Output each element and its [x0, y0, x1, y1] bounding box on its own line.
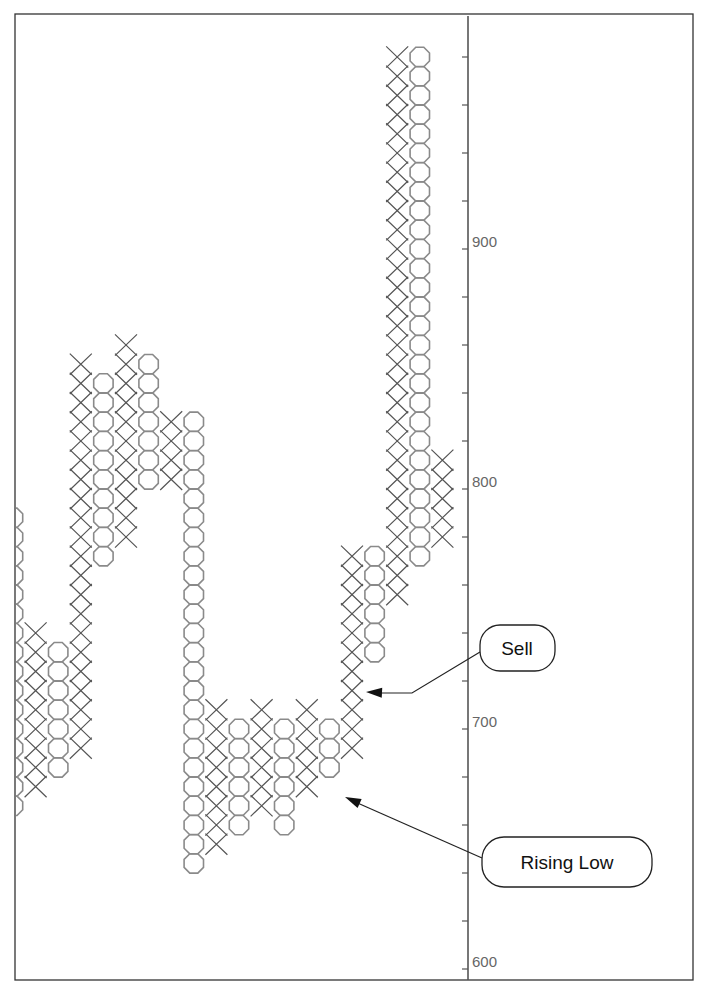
o-mark — [94, 374, 113, 393]
x-mark — [431, 507, 453, 528]
x-mark — [386, 565, 408, 586]
o-mark — [94, 393, 113, 412]
pf-column-12-o — [275, 719, 294, 834]
x-mark — [205, 757, 227, 778]
o-mark — [184, 412, 203, 431]
o-mark — [275, 777, 294, 796]
x-mark — [386, 277, 408, 298]
o-mark — [410, 182, 429, 201]
o-mark — [139, 374, 158, 393]
x-mark — [70, 642, 92, 663]
x-mark — [25, 699, 47, 720]
x-mark — [25, 680, 47, 701]
o-mark — [229, 758, 248, 777]
x-mark — [386, 142, 408, 163]
x-mark — [70, 450, 92, 471]
o-mark — [3, 719, 22, 738]
x-mark — [115, 430, 137, 451]
pf-column-9-x — [205, 699, 227, 855]
pf-columns — [3, 46, 453, 873]
o-mark — [184, 431, 203, 450]
pf-column-10-o — [229, 719, 248, 834]
x-mark — [70, 411, 92, 432]
o-mark — [184, 566, 203, 585]
o-mark — [139, 412, 158, 431]
x-mark — [386, 546, 408, 567]
chart-frame — [15, 14, 693, 980]
o-mark — [184, 489, 203, 508]
x-mark — [386, 123, 408, 144]
o-mark — [3, 623, 22, 642]
pf-column-6-o — [139, 355, 158, 490]
o-mark — [410, 86, 429, 105]
x-mark — [70, 546, 92, 567]
o-mark — [320, 739, 339, 758]
x-mark — [70, 373, 92, 394]
x-mark — [386, 354, 408, 375]
pf-column-5-x — [115, 334, 137, 547]
o-mark — [410, 201, 429, 220]
x-mark — [205, 814, 227, 835]
x-mark — [386, 526, 408, 547]
o-mark — [184, 681, 203, 700]
o-mark — [184, 777, 203, 796]
x-mark — [25, 642, 47, 663]
o-mark — [410, 297, 429, 316]
x-mark — [431, 469, 453, 490]
o-mark — [410, 431, 429, 450]
x-mark — [25, 718, 47, 739]
o-mark — [365, 547, 384, 566]
x-mark — [296, 718, 318, 739]
x-mark — [205, 834, 227, 855]
pf-column-13-x — [296, 699, 318, 797]
x-mark — [251, 757, 273, 778]
x-mark — [25, 622, 47, 643]
o-mark — [139, 451, 158, 470]
sell-arrow-line — [376, 652, 480, 693]
o-mark — [94, 431, 113, 450]
x-mark — [25, 738, 47, 759]
x-mark — [115, 334, 137, 355]
o-mark — [3, 566, 22, 585]
x-mark — [386, 219, 408, 240]
x-mark — [341, 661, 363, 682]
x-mark — [341, 603, 363, 624]
o-mark — [229, 777, 248, 796]
x-mark — [296, 738, 318, 759]
x-mark — [386, 488, 408, 509]
pf-column-16-o — [365, 547, 384, 662]
x-mark — [341, 546, 363, 567]
o-mark — [410, 412, 429, 431]
o-mark — [3, 758, 22, 777]
o-mark — [229, 719, 248, 738]
x-mark — [70, 488, 92, 509]
rising-low-arrow-line — [353, 801, 482, 858]
x-mark — [251, 795, 273, 816]
o-mark — [184, 470, 203, 489]
x-mark — [386, 411, 408, 432]
o-mark — [184, 835, 203, 854]
x-mark — [386, 507, 408, 528]
o-mark — [410, 278, 429, 297]
o-mark — [184, 854, 203, 873]
x-mark — [386, 162, 408, 183]
o-mark — [410, 451, 429, 470]
x-mark — [70, 699, 92, 720]
x-mark — [115, 507, 137, 528]
o-mark — [3, 508, 22, 527]
x-mark — [386, 85, 408, 106]
o-mark — [410, 374, 429, 393]
y-tick-label-900: 900 — [472, 233, 497, 250]
o-mark — [410, 67, 429, 86]
o-mark — [410, 470, 429, 489]
x-mark — [160, 430, 182, 451]
x-mark — [431, 450, 453, 471]
y-tick-label-800: 800 — [472, 473, 497, 490]
callout-rising-low: Rising Low — [345, 797, 652, 887]
o-mark — [3, 681, 22, 700]
point-and-figure-chart: 600 700 800 900 Sell Rising Low — [0, 0, 710, 1000]
x-mark — [25, 776, 47, 797]
x-mark — [205, 776, 227, 797]
o-mark — [3, 796, 22, 815]
o-mark — [229, 796, 248, 815]
